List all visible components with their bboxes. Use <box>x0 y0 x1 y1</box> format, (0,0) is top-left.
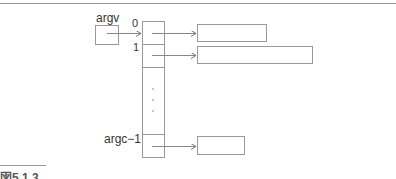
ellipsis-dot <box>152 99 153 100</box>
argv-label: argv <box>96 12 119 24</box>
index-label-0: 0 <box>132 18 138 29</box>
argv-box <box>96 26 119 45</box>
string-box-last <box>198 137 245 155</box>
argv-diagram <box>0 0 396 179</box>
pointer-array-column <box>143 22 165 158</box>
string-box-0 <box>198 25 267 42</box>
ellipsis-dot <box>152 110 153 111</box>
string-box-1 <box>198 47 313 64</box>
ellipsis-dot <box>152 88 153 89</box>
index-label-last: argc−1 <box>104 133 141 145</box>
index-label-1: 1 <box>133 42 139 53</box>
figure-caption: 図5.1.3 <box>0 172 39 179</box>
